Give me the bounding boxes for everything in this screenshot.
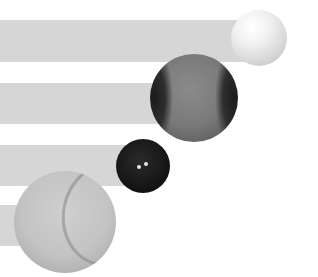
tennis-seam — [54, 171, 116, 273]
golf-ball-icon — [231, 10, 287, 66]
bar-golf-ball — [0, 20, 259, 62]
tennis-ball-icon — [14, 171, 116, 273]
squash-dot — [144, 162, 148, 166]
squash-ball-icon — [116, 139, 170, 193]
baseball-icon — [150, 54, 238, 142]
squash-dot — [137, 165, 141, 169]
pictograph-bar-chart — [0, 0, 318, 277]
